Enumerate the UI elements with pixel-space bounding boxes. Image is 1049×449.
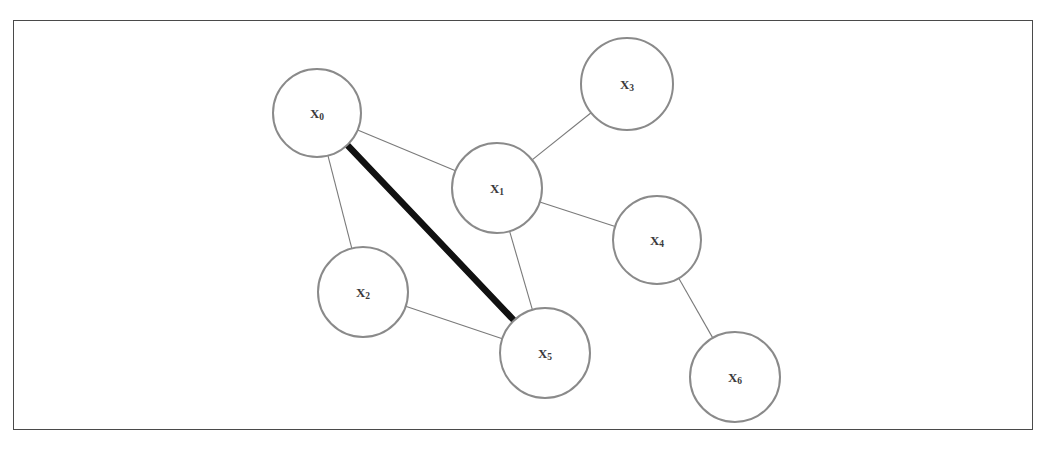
- graph-edge: [540, 202, 615, 226]
- graph-svg: X0X1X2X3X4X5X6: [0, 0, 1049, 449]
- diagram-canvas: X0X1X2X3X4X5X6: [0, 0, 1049, 449]
- graph-node-x5[interactable]: X5: [500, 308, 590, 398]
- nodes-layer: X0X1X2X3X4X5X6: [273, 38, 780, 422]
- graph-edge: [328, 156, 352, 249]
- graph-node-x1[interactable]: X1: [452, 143, 542, 233]
- graph-edge: [358, 130, 456, 171]
- graph-edge: [532, 113, 591, 160]
- graph-node-x3[interactable]: X3: [581, 38, 673, 130]
- graph-edge: [510, 231, 533, 310]
- graph-node-x4[interactable]: X4: [613, 196, 701, 284]
- graph-node-x0[interactable]: X0: [273, 69, 361, 157]
- graph-node-x2[interactable]: X2: [318, 247, 408, 337]
- graph-edge: [679, 278, 713, 338]
- graph-node-x6[interactable]: X6: [690, 332, 780, 422]
- graph-edge: [406, 306, 503, 338]
